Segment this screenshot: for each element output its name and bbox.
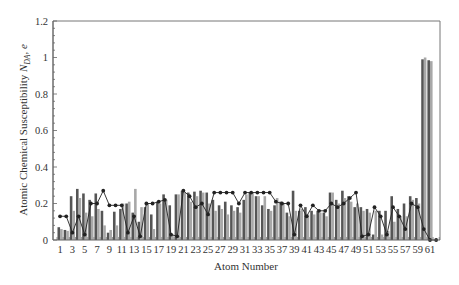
line-marker <box>163 198 167 202</box>
line-marker <box>305 214 309 218</box>
bar-dark <box>372 235 375 240</box>
x-tick-label: 33 <box>252 244 263 255</box>
bar-light <box>251 193 254 240</box>
y-tick-label: 0.8 <box>35 89 48 100</box>
bar-light <box>325 216 328 240</box>
line-marker <box>403 227 407 231</box>
y-axis: 00.20.40.60.811.2 <box>35 16 57 246</box>
line-marker <box>188 194 192 198</box>
y-tick-label: 1 <box>43 52 48 63</box>
line-marker <box>342 202 346 206</box>
line-marker <box>422 227 426 231</box>
line-marker <box>255 191 259 195</box>
bar-dark <box>286 213 289 240</box>
x-tick-label: 27 <box>215 244 226 255</box>
line-marker <box>169 233 173 237</box>
bar-dark <box>316 211 319 240</box>
bar-dark <box>242 200 245 240</box>
line-marker <box>280 202 284 206</box>
line-marker <box>138 234 142 238</box>
bar-light <box>60 229 63 240</box>
x-tick-label: 49 <box>351 244 362 255</box>
bar-dark <box>353 207 356 240</box>
bar-light <box>319 213 322 240</box>
chart: 00.20.40.60.811.2 1357911131517192123252… <box>0 0 459 285</box>
x-tick-label: 43 <box>314 244 325 255</box>
bar-light <box>375 211 378 240</box>
bar-light <box>264 196 267 240</box>
bar-dark <box>347 196 350 240</box>
x-tick-label: 31 <box>240 244 251 255</box>
y-tick-label: 0.2 <box>35 198 48 209</box>
bar-light <box>257 196 260 240</box>
line-marker <box>126 231 130 235</box>
line-marker <box>323 209 327 213</box>
x-tick-label: 13 <box>129 244 140 255</box>
bar-light <box>301 209 304 240</box>
bar-light <box>270 211 273 240</box>
line-marker <box>114 203 118 207</box>
x-tick-label: 37 <box>277 244 288 255</box>
x-tick-label: 15 <box>141 244 152 255</box>
bar-light <box>97 209 100 240</box>
line-marker <box>329 202 333 206</box>
x-tick-label: 55 <box>388 244 399 255</box>
bar-light <box>183 193 186 240</box>
x-axis-title: Atom Number <box>214 260 278 272</box>
bar-dark <box>119 209 122 240</box>
x-axis: 1357911131517192123252729313335373941434… <box>53 237 440 255</box>
line-marker <box>108 203 112 207</box>
bar-dark <box>341 191 344 240</box>
x-tick-label: 19 <box>166 244 177 255</box>
line-marker <box>360 234 364 238</box>
y-tick-label: 0 <box>43 235 48 246</box>
x-tick-label: 29 <box>227 244 238 255</box>
line-marker <box>95 202 99 206</box>
bar-light <box>276 198 279 240</box>
bar-dark <box>113 212 116 240</box>
bar-dark <box>175 194 178 240</box>
bar-light <box>227 214 230 240</box>
line-marker <box>71 231 75 235</box>
line-marker <box>218 191 222 195</box>
x-tick-label: 11 <box>117 244 127 255</box>
bar-dark <box>236 207 239 240</box>
x-tick-label: 25 <box>203 244 214 255</box>
bar-dark <box>273 205 276 240</box>
x-tick-label: 59 <box>412 244 423 255</box>
line-marker <box>200 202 204 206</box>
bar-dark <box>57 227 60 240</box>
bar-dark <box>218 205 221 240</box>
bar-dark <box>267 209 270 240</box>
bar-dark <box>421 59 424 240</box>
x-tick-label: 57 <box>400 244 411 255</box>
bar-light <box>153 229 156 240</box>
line-marker <box>225 191 229 195</box>
line-marker <box>64 214 68 218</box>
bar-light <box>103 225 106 240</box>
y-tick-label: 1.2 <box>35 16 48 27</box>
line-marker <box>292 233 296 237</box>
bar-light <box>313 214 316 240</box>
line-marker <box>77 214 81 218</box>
bar-dark <box>107 233 110 240</box>
bar-light <box>239 213 242 240</box>
x-tick-label: 51 <box>363 244 374 255</box>
bar-light <box>159 204 162 241</box>
line-marker <box>132 214 136 218</box>
bar-light <box>196 196 199 240</box>
bar-dark <box>310 211 313 240</box>
line-marker <box>268 191 272 195</box>
bar-light <box>411 200 414 240</box>
x-tick-label: 9 <box>107 244 112 255</box>
x-tick-label: 41 <box>301 244 312 255</box>
bar-light <box>220 209 223 240</box>
bar-light <box>430 61 433 240</box>
bar-dark <box>199 191 202 240</box>
plot-area <box>53 21 440 242</box>
x-tick-label: 47 <box>338 244 349 255</box>
line-marker <box>410 202 414 206</box>
x-tick-label: 1 <box>57 244 62 255</box>
x-tick-label: 45 <box>326 244 337 255</box>
line-marker <box>243 191 247 195</box>
